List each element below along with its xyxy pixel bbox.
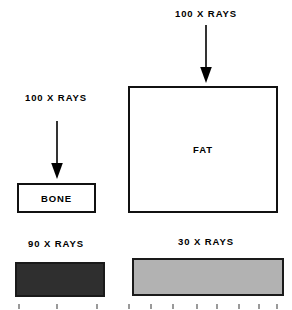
fat-incident-label: 100 X RAYS [156, 8, 256, 19]
bone-incident-arrow [49, 121, 65, 181]
downward-arrow-icon [198, 25, 214, 85]
scan-artifact-strip [0, 298, 292, 310]
bone-incident-label: 100 X RAYS [6, 92, 106, 103]
bone-material-label: BONE [41, 193, 72, 204]
fat-transmitted-bar [132, 258, 284, 296]
downward-arrow-icon [49, 121, 65, 181]
fat-incident-arrow [198, 25, 214, 85]
bone-transmitted-label: 90 X RAYS [6, 238, 106, 249]
fat-material-label: FAT [193, 144, 213, 155]
bone-material-box: BONE [17, 183, 96, 213]
fat-transmitted-label: 30 X RAYS [156, 236, 256, 247]
figure-canvas: 100 X RAYS FAT 30 X RAYS 100 X RAYS BONE… [0, 0, 292, 310]
fat-material-box: FAT [128, 86, 278, 213]
bone-transmitted-bar [15, 262, 105, 297]
